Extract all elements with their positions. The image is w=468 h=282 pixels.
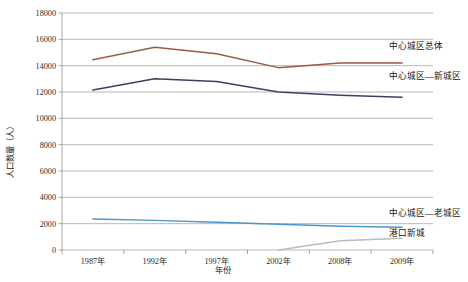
x-tick-label: 2002年 (266, 256, 290, 266)
legend-label-3: 中心城区—老城区 (389, 207, 461, 218)
x-tick-label: 1992年 (143, 256, 167, 266)
legend-label-2: 中心城区—新城区 (389, 70, 461, 81)
y-axis-tick-labels-group: 0200040006000800010000120001400016000180… (36, 9, 56, 255)
y-axis-ticks-group (59, 13, 63, 250)
x-tick-label: 2008年 (328, 256, 352, 266)
x-axis-title: 年份 (215, 265, 232, 275)
x-tick-label: 1987年 (81, 256, 105, 266)
x-axis-tick-labels-group: 1987年1992年1997年2002年2008年2009年 (81, 256, 415, 266)
y-tick-label: 8000 (40, 141, 56, 150)
y-tick-label: 14000 (36, 62, 56, 71)
y-tick-label: 10000 (36, 114, 56, 123)
y-axis-title: 人口数量（人） (5, 122, 15, 178)
chart-canvas: 0200040006000800010000120001400016000180… (0, 0, 468, 282)
legend-label-1: 中心城区总体 (389, 40, 443, 51)
series-line (278, 238, 402, 250)
series-line (93, 47, 402, 67)
population-line-chart: 0200040006000800010000120001400016000180… (0, 0, 468, 282)
x-tick-label: 1997年 (204, 256, 228, 266)
y-tick-label: 4000 (40, 193, 56, 202)
y-tick-label: 2000 (40, 220, 56, 229)
x-tick-label: 2009年 (390, 256, 414, 266)
data-series-group (93, 47, 402, 250)
gridlines-group (62, 13, 433, 250)
legend-label-4: 港口新城 (389, 227, 425, 238)
y-tick-label: 16000 (36, 35, 56, 44)
y-tick-label: 6000 (40, 167, 56, 176)
x-axis-ticks-group (62, 250, 433, 254)
series-line (93, 219, 402, 227)
series-line (93, 79, 402, 97)
legend-group: 中心城区总体中心城区—新城区中心城区—老城区港口新城 (389, 40, 461, 238)
y-tick-label: 0 (52, 246, 56, 255)
y-tick-label: 18000 (36, 9, 56, 18)
y-tick-label: 12000 (36, 88, 56, 97)
